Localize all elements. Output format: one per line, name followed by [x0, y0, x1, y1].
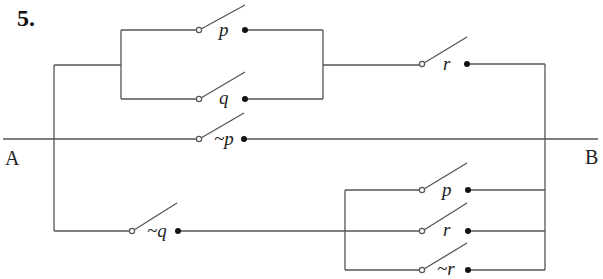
switch-not-p: ~p — [196, 113, 247, 149]
closed-contact-icon — [465, 187, 471, 193]
switch-p-bottom: p — [419, 163, 471, 200]
circuit-diagram: 5. A B p q — [0, 0, 603, 279]
closed-contact-icon — [175, 228, 181, 234]
open-contact-icon — [196, 27, 201, 32]
switch-label: r — [443, 219, 451, 240]
problem-number: 5. — [17, 5, 35, 31]
open-contact-icon — [196, 96, 201, 101]
switch-p-top: p — [196, 5, 248, 40]
closed-contact-icon — [464, 61, 470, 67]
switch-not-q: ~q — [129, 203, 181, 241]
switch-label: p — [217, 19, 229, 40]
switch-label: ~r — [437, 258, 455, 279]
closed-contact-icon — [465, 267, 471, 273]
open-contact-icon — [419, 187, 424, 192]
pq-parallel-block — [121, 30, 420, 99]
switch-q-top: q — [196, 72, 248, 108]
switch-not-r: ~r — [419, 243, 471, 279]
switch-label: ~p — [214, 128, 234, 149]
open-contact-icon — [196, 136, 201, 141]
terminal-b: B — [585, 146, 598, 168]
open-contact-icon — [419, 228, 424, 233]
closed-contact-icon — [242, 96, 248, 102]
switch-label: ~q — [147, 220, 167, 241]
switch-label: q — [219, 87, 229, 108]
switch-r-bottom: r — [419, 203, 471, 240]
open-contact-icon — [419, 267, 424, 272]
closed-contact-icon — [241, 136, 247, 142]
terminal-a: A — [5, 147, 20, 169]
switch-r-top: r — [419, 37, 470, 74]
open-contact-icon — [419, 61, 424, 66]
closed-contact-icon — [242, 27, 248, 33]
switch-label: r — [443, 53, 451, 74]
open-contact-icon — [129, 228, 134, 233]
switch-label: p — [440, 179, 452, 200]
closed-contact-icon — [465, 228, 471, 234]
